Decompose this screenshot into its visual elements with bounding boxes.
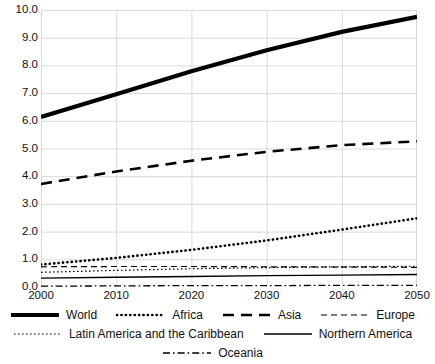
legend-item-asia[interactable]: Asia xyxy=(222,309,301,321)
y-tick-label: 6.0 xyxy=(0,115,38,127)
plot-svg xyxy=(41,10,417,287)
y-tick-label: 8.0 xyxy=(0,59,38,71)
y-tick-label: 10.0 xyxy=(0,4,38,16)
legend-swatch-icon xyxy=(162,347,212,359)
y-tick-label: 3.0 xyxy=(0,198,38,210)
legend-swatch-icon xyxy=(320,309,370,321)
legend-item-latin-america-and-the-caribbean[interactable]: Latin America and the Caribbean xyxy=(13,328,244,340)
legend-label: Africa xyxy=(172,309,203,321)
legend-item-world[interactable]: World xyxy=(10,309,97,321)
series-line-africa xyxy=(41,218,417,264)
x-tick-label: 2000 xyxy=(18,289,64,301)
series-line-europe xyxy=(41,267,417,268)
legend-row: Oceania xyxy=(0,343,425,362)
legend-swatch-icon xyxy=(116,309,166,321)
legend-swatch-icon xyxy=(263,328,313,340)
series-line-world xyxy=(41,17,417,117)
y-tick-label: 7.0 xyxy=(0,87,38,99)
legend-label: Oceania xyxy=(218,347,263,359)
legend-label: Latin America and the Caribbean xyxy=(69,328,244,340)
x-tick-label: 2040 xyxy=(319,289,365,301)
y-axis: 0.01.02.03.04.05.06.07.08.09.010.0 xyxy=(0,0,38,297)
chart-legend: WorldAfricaAsiaEuropeLatin America and t… xyxy=(0,305,425,364)
legend-label: Northern America xyxy=(319,328,412,340)
y-tick-label: 1.0 xyxy=(0,253,38,265)
legend-swatch-icon xyxy=(222,309,272,321)
legend-item-oceania[interactable]: Oceania xyxy=(162,347,263,359)
y-tick-label: 2.0 xyxy=(0,226,38,238)
legend-label: World xyxy=(66,309,97,321)
series-line-asia xyxy=(41,141,417,184)
legend-item-northern-america[interactable]: Northern America xyxy=(263,328,412,340)
legend-item-europe[interactable]: Europe xyxy=(320,309,415,321)
legend-swatch-icon xyxy=(10,309,60,321)
legend-swatch-icon xyxy=(13,328,63,340)
y-tick-label: 9.0 xyxy=(0,32,38,44)
y-tick-label: 5.0 xyxy=(0,143,38,155)
series-line-northern-america xyxy=(41,275,417,279)
series-line-oceania xyxy=(41,285,417,286)
legend-row: WorldAfricaAsiaEurope xyxy=(0,305,425,324)
legend-label: Europe xyxy=(376,309,415,321)
plot-area xyxy=(41,10,417,287)
legend-item-africa[interactable]: Africa xyxy=(116,309,203,321)
x-tick-label: 2010 xyxy=(93,289,139,301)
x-tick-label: 2050 xyxy=(394,289,435,301)
y-tick-label: 4.0 xyxy=(0,170,38,182)
x-tick-label: 2030 xyxy=(244,289,290,301)
legend-row: Latin America and the CaribbeanNorthern … xyxy=(0,324,425,343)
series-line-latin-america-and-the-caribbean xyxy=(41,266,417,272)
legend-label: Asia xyxy=(278,309,301,321)
x-tick-label: 2020 xyxy=(168,289,214,301)
